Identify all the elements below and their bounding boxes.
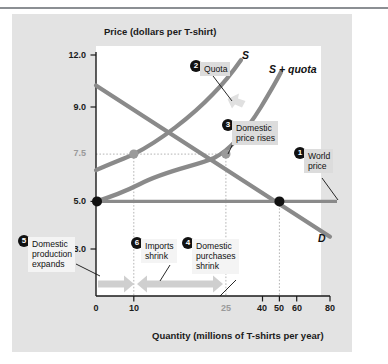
chart-figure: Price (dollars per T-shirt) Quantity (mi…: [0, 0, 388, 364]
ytick-label-5: 5.0: [58, 196, 86, 206]
callout-imports-shrink: Imports shrink: [141, 239, 177, 263]
callout-domestic-purchases-shrink: Domestic purchases shrink: [192, 239, 239, 274]
marker-demand-at-world-price-q50: [274, 196, 284, 206]
callout-domestic-price-rises: Domestic price rises: [232, 121, 278, 145]
xtick-label-0: 0: [88, 303, 104, 313]
xtick-label-40: 40: [254, 303, 270, 313]
guide-lines: [96, 154, 279, 296]
x-axis-title: Quantity (millions of T-shirts per year): [152, 330, 324, 341]
leader-world-price: [322, 178, 338, 200]
quota-gap-arrow: [228, 94, 246, 109]
ytick-label-9: 9.0: [58, 102, 86, 112]
callout-domestic-production-expands: Domestic production expands: [28, 237, 75, 272]
marker-domestic-supply-q10: [129, 150, 138, 159]
supply-curve-label: S: [242, 49, 249, 61]
leader-imports-shrink: [160, 265, 170, 281]
callout-world-price: World price: [304, 149, 333, 173]
xtick-label-10: 10: [126, 303, 142, 313]
y-axis-title: Price (dollars per T-shirt): [104, 26, 216, 37]
xtick-label-25: 25: [218, 303, 234, 313]
arrow-imports-shrink: [137, 276, 223, 293]
xtick-label-80: 80: [322, 303, 338, 313]
ytick-label-7-5: 7.5: [58, 148, 86, 158]
ytick-label-12: 12.0: [58, 50, 86, 60]
demand-curve-label: D: [318, 232, 326, 244]
supply-plus-quota-curve-label: S + quota: [269, 63, 317, 75]
demand-curve: [96, 85, 330, 236]
arrow-domestic-production-expands: [98, 276, 134, 293]
leader-domestic-purchases-shrink: [220, 280, 236, 296]
marker-world-price-axis: [92, 196, 102, 206]
xtick-label-60: 60: [289, 303, 305, 313]
base-arrows: [98, 276, 223, 293]
xtick-label-50: 50: [271, 303, 287, 313]
callout-quota: Quota: [200, 62, 230, 76]
